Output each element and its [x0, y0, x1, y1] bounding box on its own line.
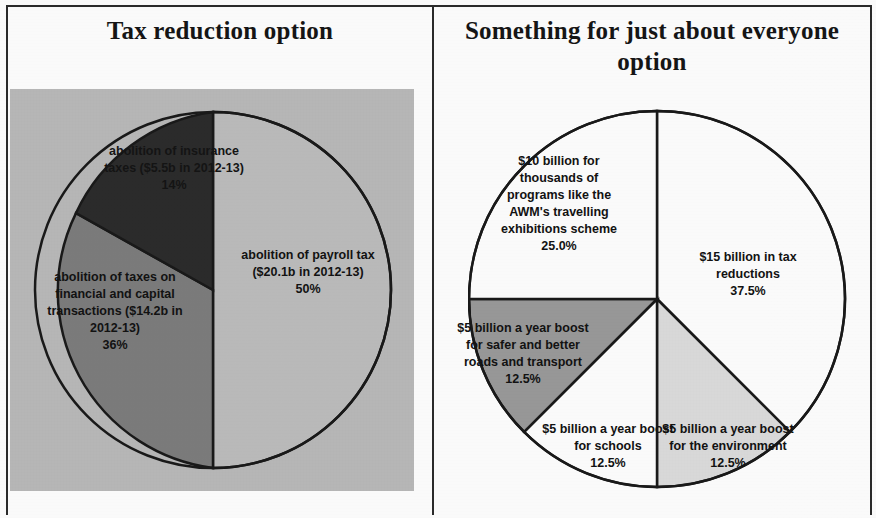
label-insurance-percent: 14%	[104, 177, 244, 194]
label-financial-transactions: abolition of taxes on financial and capi…	[44, 252, 186, 371]
label-schools-text: $5 billion a year boost for schools	[542, 422, 673, 453]
label-payroll-tax: abolition of payroll tax ($20.1b in 2012…	[240, 230, 376, 315]
label-insurance-taxes: abolition of insurance taxes ($5.5b in 2…	[104, 126, 244, 211]
label-payroll-percent: 50%	[240, 281, 376, 298]
label-roads-text: $5 billion a year boost for safer and be…	[457, 321, 588, 369]
frame-right-border	[870, 5, 872, 515]
label-roads-percent: 12.5%	[452, 371, 594, 388]
panel-left-title: Tax reduction option	[8, 15, 432, 46]
label-tax-reductions-percent: 37.5%	[678, 283, 818, 300]
label-environment-text: $5 billion a year boost for the environm…	[662, 422, 793, 453]
label-financial-text: abolition of taxes on financial and capi…	[47, 270, 182, 335]
label-insurance-text: abolition of insurance taxes ($5.5b in 2…	[104, 144, 244, 175]
label-roads-and-transport: $5 billion a year boost for safer and be…	[452, 303, 594, 405]
label-payroll-text: abolition of payroll tax ($20.1b in 2012…	[241, 248, 374, 279]
label-financial-percent: 36%	[44, 337, 186, 354]
label-schools: $5 billion a year boost for schools 12.5…	[541, 404, 675, 489]
label-tax-reductions-text: $15 billion in tax reductions	[699, 250, 796, 281]
label-environment: $5 billion a year boost for the environm…	[658, 404, 798, 489]
label-tax-reductions: $15 billion in tax reductions 37.5%	[678, 232, 818, 317]
label-environment-percent: 12.5%	[658, 455, 798, 472]
figure-root: Tax reduction option abolition of insura…	[0, 0, 876, 518]
label-programs-text: $10 billion for thousands of programs li…	[501, 154, 617, 236]
panel-right-title: Something for just about everyone option	[434, 15, 870, 77]
label-programs: $10 billion for thousands of programs li…	[500, 136, 618, 272]
label-programs-percent: 25.0%	[500, 238, 618, 255]
label-schools-percent: 12.5%	[541, 455, 675, 472]
